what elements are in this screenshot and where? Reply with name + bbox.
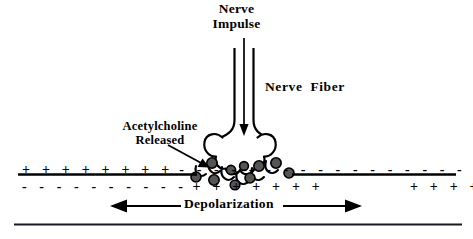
- membrane-charges-top: + + + + + + + + - - - - - - - - - - - - …: [22, 163, 454, 176]
- membrane-charges-bottom: - - - - - - - - - - + + + + + + + + + + …: [22, 180, 454, 193]
- acetylcholine-released-label: Acetylcholine Released: [96, 120, 224, 147]
- nerve-impulse-arrow: [239, 38, 248, 136]
- nerve-impulse-diagram: Nerve Impulse Nerve Fiber Acetylcholine …: [0, 0, 473, 239]
- nerve-impulse-label: Nerve Impulse: [0, 2, 473, 31]
- charge-bottom-center-positive: + + + + + + +: [193, 179, 324, 195]
- charge-top-left-positive: + + + + + + + +: [22, 162, 173, 178]
- charge-top-center-negative: - - - - - - - - - - - - - - - - - -: [179, 162, 473, 178]
- depolarization-label: Depolarization: [184, 197, 274, 212]
- charge-bottom-left-negative: - - - - - - - - - -: [22, 179, 188, 195]
- nerve-fiber-label: Nerve Fiber: [265, 80, 345, 95]
- charge-bottom-center-right-positive: + + + + + +: [410, 179, 473, 195]
